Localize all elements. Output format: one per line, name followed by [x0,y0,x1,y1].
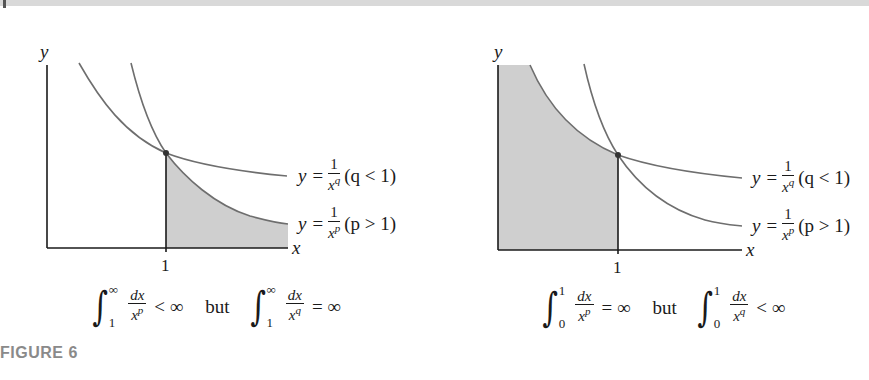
left-curve-p-label: y = 1 xp (p > 1) [298,205,396,242]
base: x [131,307,138,323]
relation: = ∞ [312,297,341,316]
relation: < ∞ [756,298,785,317]
exponent: p [585,305,591,317]
integral-1: ∫ ∞1 [90,283,118,329]
denominator: xp [782,224,794,244]
integrand: dx xp [575,289,593,326]
numerator: dx [575,289,593,306]
fraction: 1 xq [328,157,340,194]
numerator: 1 [328,205,340,222]
base: x [578,308,585,324]
left-shaded-region [166,153,288,248]
integrand: dx xq [730,289,748,326]
fraction: 1 xp [782,207,794,244]
left-panel-graph [47,63,288,252]
base: x [328,225,335,241]
integral-sign-icon: ∫ [697,287,713,327]
limits: 10 [559,284,566,330]
exponent: p [335,222,341,234]
connector: but [205,297,229,316]
lhs: y = [298,214,324,233]
right-intersection-point [615,152,621,158]
exponent: p [789,224,795,236]
denominator: xp [131,304,143,324]
numerator: dx [286,288,304,305]
denominator: xq [733,305,745,325]
left-curve-q [79,63,287,176]
lhs: y = [298,166,324,185]
upper-limit: 1 [559,284,566,297]
right-shaded-region [498,65,618,250]
left-intersection-point [163,150,169,156]
exponent: q [335,174,341,186]
connector: but [653,298,677,317]
integrand: dx xp [128,288,146,325]
numerator: 1 [328,157,340,174]
base: x [782,227,789,243]
limits: 10 [714,284,721,330]
relation: = ∞ [602,298,631,317]
base: x [733,308,740,324]
integral-2: ∫ 10 [695,284,720,330]
denominator: xq [328,174,340,194]
integral-sign-icon: ∫ [543,287,559,327]
exponent: q [295,304,301,316]
left-equation: ∫ ∞1 dx xp < ∞ but ∫ ∞1 dx xq = ∞ [90,283,341,329]
integrand: dx xq [286,288,304,325]
right-equation: ∫ 10 dx xp = ∞ but ∫ 10 dx xq < ∞ [540,284,785,330]
left-curve-q-label: y = 1 xq (q < 1) [298,157,396,194]
denominator: xq [782,176,794,196]
numerator: 1 [782,207,794,224]
base: x [782,179,789,195]
numerator: dx [128,288,146,305]
condition: (p > 1) [344,214,396,233]
relation: < ∞ [154,297,183,316]
right-curve-q-label: y = 1 xq (q < 1) [752,159,850,196]
lower-limit: 0 [714,317,721,330]
numerator: dx [730,289,748,306]
limits: ∞1 [266,283,275,329]
integral-sign-icon: ∫ [93,286,109,326]
integral-sign-icon: ∫ [250,286,266,326]
lhs: y = [752,216,778,235]
lower-limit: 0 [559,317,566,330]
condition: (q < 1) [344,166,396,185]
figure-caption: FIGURE 6 [0,344,78,362]
right-panel-graph [498,64,742,254]
left-y-axis-label: y [40,42,48,61]
upper-limit: ∞ [266,283,275,296]
right-y-axis-label: y [494,42,502,61]
lower-limit: 1 [266,316,275,329]
left-tick-1: 1 [161,257,170,274]
integral-2: ∫ ∞1 [248,283,276,329]
denominator: xq [289,304,301,324]
numerator: 1 [782,159,794,176]
denominator: xp [578,305,590,325]
exponent: p [138,304,144,316]
denominator: xp [328,222,340,242]
limits: ∞1 [109,283,118,329]
upper-limit: 1 [714,284,721,297]
fraction: 1 xp [328,205,340,242]
exponent: q [740,305,746,317]
lower-limit: 1 [109,316,118,329]
right-tick-1: 1 [613,259,622,276]
condition: (p > 1) [798,216,850,235]
exponent: q [789,176,795,188]
fraction: 1 xq [782,159,794,196]
condition: (q < 1) [798,168,850,187]
right-curve-p-label: y = 1 xp (p > 1) [752,207,850,244]
lhs: y = [752,168,778,187]
base: x [328,177,335,193]
integral-1: ∫ 10 [540,284,565,330]
upper-limit: ∞ [109,283,118,296]
